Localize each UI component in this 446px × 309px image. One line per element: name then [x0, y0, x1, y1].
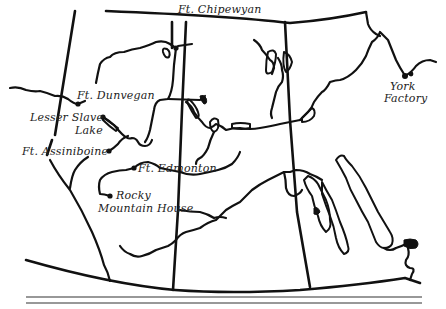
label-ft-dunvegan: Ft. Dunvegan — [77, 89, 155, 102]
fort-marker-york-factory — [402, 73, 408, 79]
label-lesser-slave-lake-line2: Lake — [75, 124, 103, 137]
lake-churchill-east — [232, 123, 250, 129]
lake-winnipegosis-outline — [304, 176, 331, 232]
historical-map: Ft. Chipewyan Ft. Dunvegan Lesser Slave … — [0, 0, 446, 309]
chipewyan-east-river — [178, 44, 192, 46]
lake-athabasca-outline — [163, 48, 170, 57]
southern-boundary — [26, 260, 420, 292]
athabasca-crossing — [168, 96, 205, 100]
beaver-river — [196, 132, 214, 164]
label-ft-edmonton: Ft. Edmonton — [138, 162, 217, 175]
label-ft-chipewyan: Ft. Chipewyan — [178, 3, 262, 16]
label-lesser-slave-lake-line1: Lesser Slave — [30, 111, 98, 124]
reindeer-river — [254, 40, 274, 74]
lake-of-the-woods-dark — [404, 239, 418, 249]
lake-small-dark — [200, 95, 207, 104]
nelson-river-upper — [366, 12, 380, 36]
peace-river-west — [10, 87, 85, 104]
red-river — [406, 248, 414, 280]
nelson-river — [300, 32, 405, 120]
bc-alberta-boundary — [47, 11, 75, 155]
label-york-factory-line2: Factory — [384, 92, 428, 105]
lesser-slave-lake-outline — [103, 117, 118, 131]
lake-manitoba-outline — [322, 182, 349, 254]
assiniboine-river — [109, 136, 128, 151]
fort-marker-edmonton — [131, 165, 136, 170]
label-rocky-mountain-house-line2: Mountain House — [98, 202, 193, 215]
fort-marker-rocky-mountain-house — [107, 193, 112, 198]
saskatchewan-manitoba-boundary — [285, 22, 310, 287]
label-rocky-mountain-house-line1: Rocky — [116, 189, 151, 202]
lake-dark-marker-1 — [314, 208, 320, 215]
york-factory-secondary-marker — [409, 72, 414, 77]
fort-marker-dunvegan — [75, 101, 80, 106]
label-ft-assiniboine: Ft. Assiniboine — [22, 145, 108, 158]
churchill-river-system — [186, 102, 300, 130]
athabasca-upper-river — [70, 157, 88, 188]
